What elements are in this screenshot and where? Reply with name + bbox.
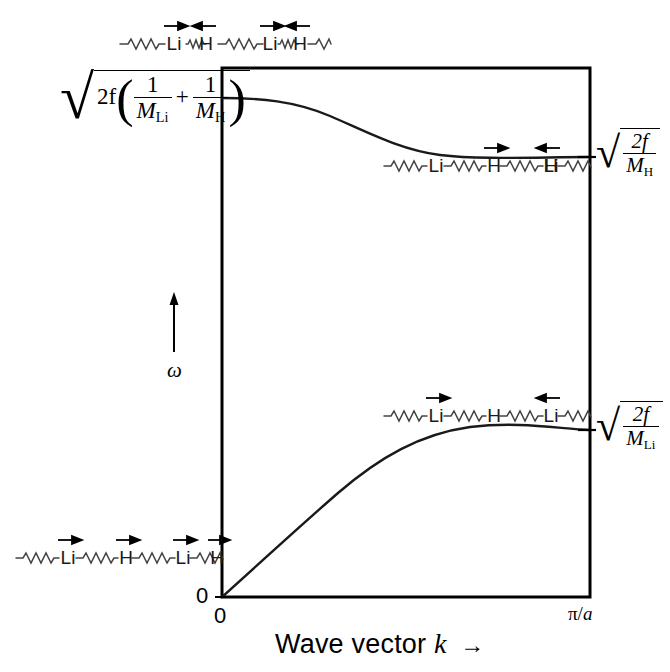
coefficient-2f: 2f <box>97 84 116 109</box>
pi-symbol: π <box>568 603 578 624</box>
optical-edge-denominator-sub: H <box>644 164 654 179</box>
chain-acoustic-zone-center-overlay: H <box>14 528 239 572</box>
acoustic-edge-denominator: M <box>626 426 644 450</box>
x-axis-title-symbol: k <box>434 628 447 659</box>
chain-optical-zone-edge-overlay: H <box>382 136 594 180</box>
frac2-numerator: 1 <box>193 73 229 98</box>
y-axis-origin-tick-label: 0 <box>196 585 208 607</box>
y-axis-label-omega: ω <box>167 360 182 381</box>
acoustic-zone-edge-label: √ 2f MLi <box>596 401 663 451</box>
acoustic-edge-denominator-sub: Li <box>644 437 656 452</box>
arrow-left <box>286 22 310 30</box>
frac2-denominator-sub: H <box>215 109 226 125</box>
svg-text:H: H <box>199 33 213 54</box>
omega-axis-arrow <box>170 292 179 352</box>
plus-sign: + <box>172 84 193 109</box>
arrow-right <box>164 22 188 30</box>
optical-zone-center-label: √ 2f( 1 MLi + 1 MH ) <box>60 70 250 124</box>
acoustic-branch-curve <box>222 425 590 597</box>
svg-text:H: H <box>578 405 592 426</box>
x-axis-title: Wave vector k → <box>275 630 485 658</box>
radical-icon: √ <box>596 136 620 170</box>
chain-optical-zone-center: Li H Li H <box>118 14 328 58</box>
arrow-left <box>192 22 216 30</box>
svg-text:H: H <box>293 33 307 54</box>
x-axis-origin-tick-label: 0 <box>214 605 226 627</box>
frac2-denominator: M <box>196 98 215 123</box>
open-paren: ( <box>116 83 133 114</box>
frac1-denominator-sub: Li <box>156 109 169 125</box>
frac1-denominator: M <box>137 98 156 123</box>
x-axis-max-tick-label: π/a <box>568 604 592 623</box>
svg-text:H: H <box>210 547 224 568</box>
x-axis-title-text: Wave vector <box>275 629 426 659</box>
svg-text:H: H <box>544 155 558 176</box>
radical-icon: √ <box>60 73 94 121</box>
optical-edge-numerator: 2f <box>623 131 656 154</box>
optical-zone-edge-label: √ 2f MH <box>596 128 660 178</box>
x-axis-title-arrow-icon: → <box>454 631 484 658</box>
arrow-right <box>208 536 230 544</box>
arrow-right <box>260 22 284 30</box>
close-paren: ) <box>228 83 245 114</box>
lattice-constant-a: a <box>583 603 593 624</box>
radical-icon: √ <box>596 409 620 443</box>
arrow-left <box>536 144 560 152</box>
acoustic-edge-numerator: 2f <box>623 404 658 427</box>
chain-acoustic-zone-edge-overlay: H <box>382 386 594 430</box>
phonon-dispersion-figure: Li H Li H Li H Li Li <box>0 0 670 672</box>
optical-edge-denominator: M <box>626 153 644 177</box>
svg-text:Li: Li <box>167 33 182 54</box>
svg-text:Li: Li <box>263 33 278 54</box>
frac1-numerator: 1 <box>134 73 172 98</box>
